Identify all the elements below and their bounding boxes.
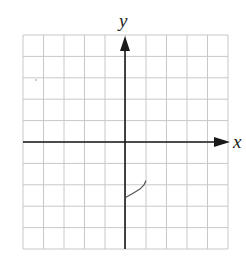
coordinate-plane: x y	[0, 0, 246, 261]
plotted-curve	[126, 181, 147, 198]
speck	[35, 79, 37, 81]
y-axis-arrow-icon	[120, 36, 130, 51]
y-axis-label: y	[117, 10, 128, 31]
x-axis-label: x	[232, 131, 242, 152]
x-axis	[23, 137, 230, 147]
